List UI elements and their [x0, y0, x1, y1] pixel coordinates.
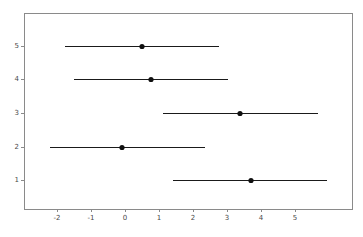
x-tick-label: -2	[54, 214, 61, 222]
estimate-point-marker	[148, 77, 153, 82]
interval-plot-figure: -2-1012345 12345	[0, 0, 363, 237]
y-tick-label: 5	[15, 42, 19, 50]
x-tick-label: 4	[259, 214, 264, 222]
interval-plot-canvas: -2-1012345 12345	[0, 0, 363, 237]
y-tick-label: 1	[15, 176, 19, 184]
x-tick-label: 0	[123, 214, 127, 222]
y-tick-label: 2	[15, 143, 19, 151]
estimate-point-marker	[248, 178, 253, 183]
x-tick-label: -1	[88, 214, 95, 222]
x-tick-label: 2	[191, 214, 195, 222]
y-tick-label: 3	[15, 109, 19, 117]
y-tick-label: 4	[15, 75, 20, 83]
estimate-point-marker	[237, 111, 242, 116]
figure-background	[0, 0, 363, 237]
x-tick-label: 1	[157, 214, 161, 222]
estimate-point-marker	[139, 44, 144, 49]
x-tick-label: 3	[225, 214, 229, 222]
estimate-point-marker	[119, 145, 124, 150]
x-tick-label: 5	[293, 214, 297, 222]
